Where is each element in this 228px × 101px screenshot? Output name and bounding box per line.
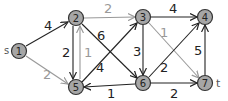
weight-6-4: 2 [160, 60, 168, 75]
weight-2-3: 2 [104, 1, 112, 16]
node-1: 1 [12, 44, 27, 59]
weight-3-6: 3 [133, 44, 141, 59]
node-label: 5 [73, 82, 79, 93]
node-label: 4 [202, 12, 208, 23]
node-4: 4 [198, 10, 213, 25]
weight-5-2: 1 [84, 45, 92, 60]
edge-weights: 4 2 2 2 1 6 4 4 3 1 1 2 2 5 [43, 1, 202, 101]
edge-2-3 [84, 17, 135, 18]
weight-6-7: 2 [170, 86, 178, 101]
sink-label: t [216, 77, 221, 90]
node-label: 7 [202, 78, 208, 89]
weight-6-5: 1 [107, 86, 115, 101]
source-label: s [4, 45, 9, 56]
nodes: 1 2 3 4 5 6 7 [12, 10, 213, 95]
weight-5-3: 4 [96, 60, 104, 75]
node-5: 5 [69, 80, 84, 95]
weight-3-7: 1 [160, 25, 168, 40]
graph-diagram: 4 2 2 2 1 6 4 4 3 1 1 2 2 5 1 2 3 4 [0, 0, 228, 101]
node-label: 6 [140, 78, 146, 89]
node-label: 1 [16, 46, 22, 57]
node-label: 3 [140, 12, 146, 23]
weight-2-5: 2 [62, 45, 70, 60]
node-3: 3 [136, 10, 151, 25]
node-label: 2 [73, 13, 79, 24]
node-6: 6 [136, 76, 151, 91]
weight-1-2: 4 [44, 18, 52, 33]
weight-7-4: 5 [194, 43, 202, 58]
node-2: 2 [69, 11, 84, 26]
weight-2-6: 6 [97, 28, 105, 43]
graph-svg: 4 2 2 2 1 6 4 4 3 1 1 2 2 5 1 2 3 4 [0, 0, 228, 101]
weight-1-5: 2 [43, 67, 51, 82]
node-7: 7 [198, 76, 213, 91]
weight-3-4: 4 [169, 1, 177, 16]
edges [26, 17, 205, 87]
